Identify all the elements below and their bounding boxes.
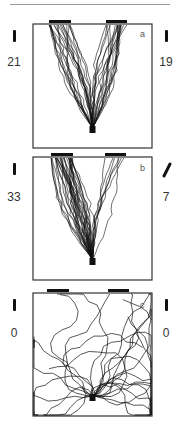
panel-a: [13, 20, 168, 148]
left-cue-icon: [13, 299, 16, 311]
right-cue-oblique-icon: [164, 164, 170, 176]
panel-a-left-count: 21: [2, 55, 26, 69]
right-cue-icon: [165, 299, 168, 311]
trajectory: [95, 383, 152, 415]
panel-c-right-count: 0: [154, 326, 178, 340]
panel-b-right-count: 7: [154, 190, 178, 204]
right-door-bar: [108, 289, 129, 292]
panel-a-right-count: 19: [154, 55, 178, 69]
trajectory: [93, 396, 152, 415]
left-door-bar: [51, 153, 73, 156]
panel-c-left-count: 0: [2, 326, 26, 340]
panel-b: [13, 153, 170, 280]
panel-a-label: a: [140, 29, 145, 39]
panel-b-left-count: 33: [2, 190, 26, 204]
right-cue-icon: [165, 30, 168, 42]
trajectory: [51, 295, 94, 396]
trajectory: [44, 386, 95, 415]
trajectory: [93, 158, 119, 260]
right-door-bar: [106, 20, 127, 23]
panel-c-label: c: [140, 300, 145, 310]
trajectory: [61, 25, 92, 128]
left-cue-icon: [13, 163, 16, 175]
left-door-bar: [47, 289, 69, 292]
trajectory: [93, 25, 127, 128]
left-cue-icon: [13, 30, 16, 42]
right-door-bar: [105, 153, 126, 156]
trajectory: [93, 158, 120, 260]
trajectory: [91, 373, 151, 415]
trajectory: [34, 387, 95, 415]
left-door-bar: [49, 20, 71, 23]
panel-b-label: b: [140, 163, 145, 173]
